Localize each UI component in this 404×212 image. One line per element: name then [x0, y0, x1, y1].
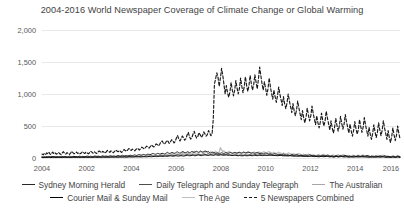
y-tick-label: 1,000 — [18, 90, 37, 99]
legend-label: 5 Newspapers Combined — [261, 193, 354, 203]
legend-swatch-icon — [312, 184, 325, 185]
series-line — [42, 151, 400, 157]
data-series-lines — [42, 67, 400, 157]
legend-item[interactable]: The Australian — [312, 180, 382, 190]
legend-item[interactable]: Sydney Morning Herald — [22, 180, 126, 190]
legend-label: The Australian — [329, 180, 382, 190]
y-tick-label: 2,000 — [18, 26, 37, 35]
x-tick-label: 2004 — [123, 164, 139, 173]
series-line — [42, 67, 400, 155]
legend-item[interactable]: 5 Newspapers Combined — [244, 193, 354, 203]
legend-item[interactable]: Daily Telegraph and Sunday Telegraph — [139, 180, 298, 190]
legend-label: The Age — [199, 193, 230, 203]
legend-label: Sydney Morning Herald — [39, 180, 126, 190]
legend-swatch-icon — [50, 197, 63, 198]
chart-container: 2004-2016 World Newspaper Coverage of Cl… — [0, 0, 404, 212]
legend-item[interactable]: Courier Mail & Sunday Mail — [50, 193, 168, 203]
legend-swatch-icon — [244, 197, 257, 198]
legend-swatch-icon — [182, 197, 195, 198]
legend-label: Courier Mail & Sunday Mail — [67, 193, 168, 203]
legend-swatch-icon — [22, 184, 35, 185]
x-tick-label: 2008 — [213, 164, 229, 173]
x-tick-label: 2004 — [34, 164, 50, 173]
legend-label: Daily Telegraph and Sunday Telegraph — [156, 180, 298, 190]
y-tick-label: 500 — [24, 122, 36, 131]
legend-item[interactable]: The Age — [182, 193, 230, 203]
y-tick-label: 0 — [32, 154, 36, 163]
x-tick-label: 2016 — [383, 164, 399, 173]
legend-row: Sydney Morning HeraldDaily Telegraph and… — [0, 178, 404, 191]
x-tick-label: 2002 — [79, 164, 95, 173]
x-tick-label: 2014 — [347, 164, 363, 173]
x-tick-label: 2010 — [258, 164, 274, 173]
gridlines — [42, 30, 400, 158]
legend-row: Courier Mail & Sunday MailThe Age5 Newsp… — [0, 191, 404, 204]
x-tick-label: 2012 — [302, 164, 318, 173]
y-tick-label: 1,500 — [18, 58, 37, 67]
legend-swatch-icon — [139, 184, 152, 185]
x-tick-label: 2006 — [168, 164, 184, 173]
x-axis-tick-labels: 200420022004200620082010201220142016 — [34, 164, 399, 173]
y-axis-tick-labels: 05001,0001,5002,000 — [18, 26, 37, 163]
chart-legend: Sydney Morning HeraldDaily Telegraph and… — [0, 178, 404, 204]
